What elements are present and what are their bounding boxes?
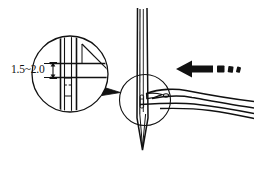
motion-trail [217, 66, 241, 73]
arrow-shape [176, 61, 213, 78]
looper-lower-edge [160, 108, 254, 118]
motion-arrow [176, 61, 213, 78]
motion-trail-dash-1 [217, 66, 225, 73]
looper-mid-edge-upper [152, 96, 254, 108]
motion-trail-dash-2 [228, 66, 234, 73]
diagram-canvas [0, 0, 254, 169]
motion-trail-dash-3 [236, 66, 241, 73]
needle [137, 8, 148, 150]
needle-outline [137, 8, 148, 150]
looper-hook [140, 89, 254, 118]
dimension-label: 1.5~2.0 [11, 64, 45, 76]
looper-eyelet [163, 94, 168, 97]
technical-diagram: 1.5~2.0 [0, 0, 254, 169]
